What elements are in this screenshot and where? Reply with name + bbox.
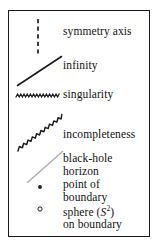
black-hole-horizon-line-1: black-hole [63, 152, 149, 165]
point-of-boundary-symbol [33, 180, 47, 194]
open-circle-icon [38, 207, 42, 211]
infinity-symbol [16, 55, 63, 87]
legend-label-symmetry-axis: symmetry axis [63, 25, 132, 38]
black-hole-horizon-symbol [26, 150, 64, 184]
legend-figure: symmetry axis infinity singularity incom… [0, 0, 157, 246]
singularity-symbol [15, 90, 61, 102]
sphere-on-boundary-line-1: sphere (S2) [63, 203, 149, 218]
black-hole-horizon-line-2: horizon [63, 165, 149, 178]
incompleteness-symbol [17, 110, 63, 152]
horizontal-zigzag-line-icon [16, 94, 59, 97]
sphere-on-boundary-line-2: on boundary [63, 218, 149, 231]
sphere-math-prefix: sphere ( [63, 206, 101, 218]
filled-dot-icon [38, 185, 42, 189]
legend-label-incompleteness: incompleteness [63, 128, 135, 141]
legend-label-sphere-on-boundary: sphere (S2) on boundary [63, 203, 149, 231]
legend-label-point-of-boundary: point of boundary [63, 178, 149, 203]
legend-label-infinity: infinity [63, 59, 98, 72]
gray-diagonal-line-icon [28, 152, 63, 183]
point-of-boundary-line-2: boundary [63, 191, 149, 204]
symmetry-axis-symbol [30, 18, 46, 58]
solid-diagonal-line-icon [18, 57, 62, 86]
point-of-boundary-line-1: point of [63, 178, 149, 191]
legend-label-singularity: singularity [63, 88, 113, 101]
legend-label-black-hole-horizon: black-hole horizon [63, 152, 149, 177]
sphere-on-boundary-symbol [33, 202, 47, 216]
diagonal-zigzag-line-icon [18, 115, 62, 152]
sphere-math-suffix: ) [110, 206, 114, 218]
